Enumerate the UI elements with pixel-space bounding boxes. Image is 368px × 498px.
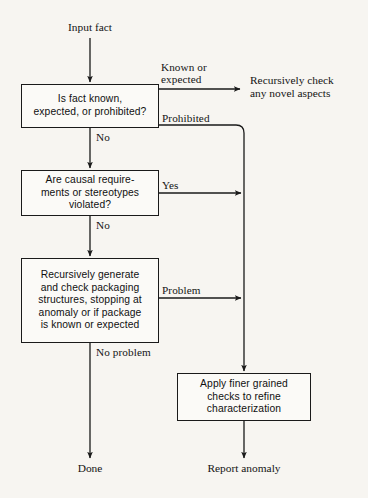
node-apply-finer-checks[interactable]: Apply finer grained checks to refine cha… <box>177 373 311 421</box>
terminal-input-fact: Input fact <box>44 21 136 34</box>
edge-prohibited <box>159 125 244 186</box>
flowchart-canvas: Input fact Is fact known, expected, or p… <box>0 0 368 498</box>
edge-label-prohibited: Prohibited <box>162 112 210 124</box>
terminal-report-anomaly: Report anomaly <box>189 462 299 475</box>
edge-label-no-1: No <box>96 131 110 143</box>
node-apply-finer-checks-label: Apply finer grained checks to refine cha… <box>196 378 292 416</box>
terminal-recursively-check: Recursively check any novel aspects <box>250 74 366 100</box>
node-is-fact-known-label: Is fact known, expected, or prohibited? <box>30 93 151 118</box>
edge-label-yes: Yes <box>162 179 179 191</box>
node-causal-requirements[interactable]: Are causal require- ments or stereotypes… <box>21 170 159 216</box>
node-is-fact-known[interactable]: Is fact known, expected, or prohibited? <box>21 84 159 128</box>
edge-label-no-problem: No problem <box>96 346 151 358</box>
node-recursively-generate-label: Recursively generate and check packaging… <box>34 269 146 332</box>
edge-label-problem: Problem <box>162 284 201 296</box>
terminal-done: Done <box>50 462 130 475</box>
edge-label-no-2: No <box>96 219 110 231</box>
node-recursively-generate[interactable]: Recursively generate and check packaging… <box>21 258 159 343</box>
edge-label-known-or-expected: Known or expected <box>161 61 207 86</box>
node-causal-requirements-label: Are causal require- ments or stereotypes… <box>37 174 143 212</box>
